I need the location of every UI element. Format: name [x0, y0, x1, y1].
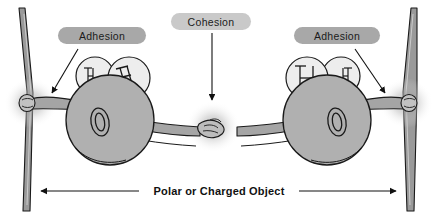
cohesion-label: Cohesion [171, 13, 251, 30]
adhesion-left-arrow [52, 49, 78, 93]
water-molecule-left [66, 57, 154, 165]
adhesion-label-left: Adhesion [58, 27, 146, 44]
water-molecule-right [283, 57, 371, 165]
hand-grip-icon-left [19, 95, 35, 112]
adhesion-label-right: Adhesion [294, 27, 380, 44]
oxygen-atom-left [66, 75, 154, 165]
hand-grip-icon-right [401, 95, 417, 112]
polar-or-charged-object-label: Polar or Charged Object [139, 183, 299, 199]
diagram-canvas: Adhesion Cohesion Adhesion Polar or Char… [0, 0, 437, 222]
oxygen-atom-right [283, 75, 371, 165]
